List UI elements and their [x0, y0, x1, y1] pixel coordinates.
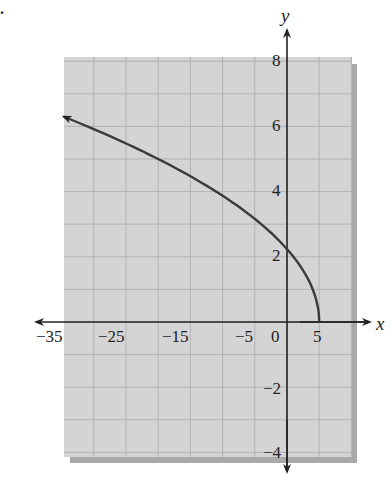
y-axis-label: y — [281, 6, 289, 25]
graph-plot — [0, 0, 392, 482]
y-tick-4: 4 — [272, 182, 281, 199]
x-tick-minus-15: −15 — [162, 328, 189, 345]
y-tick-2: 2 — [272, 247, 281, 264]
y-tick-minus-4: −4 — [263, 444, 281, 461]
x-tick-zero: 0 — [271, 328, 280, 345]
y-tick-8: 8 — [272, 52, 281, 69]
x-axis-label: x — [376, 314, 384, 333]
x-tick-minus-35: −35 — [36, 328, 63, 345]
x-tick-minus-25: −25 — [98, 328, 125, 345]
y-tick-minus-2: −2 — [263, 380, 281, 397]
y-tick-6: 6 — [272, 117, 281, 134]
x-tick-minus-5: −5 — [235, 328, 253, 345]
x-tick-5: 5 — [313, 328, 322, 345]
